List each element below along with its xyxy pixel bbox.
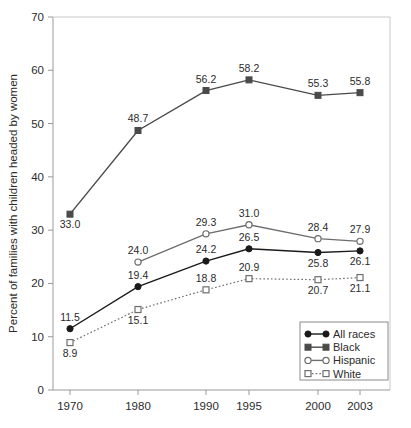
data-point-label: 25.8 [308, 257, 329, 269]
y-axis-tick-label: 20 [31, 277, 44, 289]
data-point-marker [315, 249, 321, 255]
data-point-marker [203, 258, 209, 264]
y-axis-tick-label: 60 [31, 64, 44, 76]
data-point-marker [135, 307, 141, 313]
data-point-marker [357, 238, 363, 244]
data-point-marker [315, 277, 321, 283]
data-point-label: 8.9 [63, 347, 78, 359]
legend-swatch-marker [305, 371, 311, 377]
line-chart: 010203040506070197019801990199520002003P… [0, 0, 411, 428]
data-point-marker [135, 127, 141, 133]
legend-item-white[interactable]: White [333, 368, 361, 380]
data-point-marker [67, 340, 73, 346]
data-point-marker [246, 276, 252, 282]
legend-swatch-marker [323, 344, 329, 350]
series-line-black [70, 80, 360, 214]
data-point-marker [246, 77, 252, 83]
data-point-label: 33.0 [60, 218, 81, 230]
data-point-label: 11.5 [60, 311, 80, 323]
data-point-label: 31.0 [239, 207, 260, 219]
data-point-label: 48.7 [128, 112, 149, 124]
data-point-label: 21.1 [350, 282, 371, 294]
y-axis-tick-label: 0 [38, 384, 44, 396]
data-point-label: 26.1 [350, 255, 371, 267]
y-axis-tick-label: 10 [31, 331, 44, 343]
data-point-marker [357, 275, 363, 281]
legend-swatch-marker [323, 357, 329, 363]
data-point-label: 15.1 [128, 314, 149, 326]
x-axis-tick-label: 1970 [57, 400, 83, 412]
y-axis-tick-label: 40 [31, 171, 44, 183]
data-point-label: 20.9 [239, 261, 260, 273]
data-point-marker [67, 211, 73, 217]
data-point-marker [246, 222, 252, 228]
data-point-marker [357, 248, 363, 254]
data-point-label: 56.2 [196, 73, 217, 85]
data-point-marker [315, 236, 321, 242]
legend-item-all-races[interactable]: All races [333, 328, 376, 340]
data-point-label: 55.8 [350, 75, 371, 87]
data-point-marker [203, 88, 209, 94]
data-point-label: 58.2 [239, 62, 260, 74]
x-axis-tick-label: 1980 [125, 400, 151, 412]
x-axis-tick-label: 1995 [236, 400, 262, 412]
y-axis-tick-label: 70 [31, 11, 44, 23]
data-point-marker [203, 287, 209, 293]
data-point-label: 24.0 [128, 244, 149, 256]
x-axis-tick-label: 2000 [305, 400, 331, 412]
data-point-label: 55.3 [308, 77, 329, 89]
y-axis-title: Percent of families with children headed… [7, 74, 19, 333]
legend-item-hispanic[interactable]: Hispanic [333, 354, 376, 366]
data-point-label: 18.8 [196, 272, 217, 284]
legend-swatch-marker [305, 344, 311, 350]
data-point-label: 29.3 [196, 216, 217, 228]
data-point-marker [203, 231, 209, 237]
legend-swatch-marker [305, 331, 311, 337]
legend-swatch-marker [323, 371, 329, 377]
data-point-marker [315, 92, 321, 98]
data-point-marker [357, 90, 363, 96]
legend-swatch-marker [305, 357, 311, 363]
data-point-label: 27.9 [350, 223, 371, 235]
legend-swatch-marker [323, 331, 329, 337]
data-point-label: 19.4 [128, 269, 149, 281]
legend-item-black[interactable]: Black [333, 341, 360, 353]
y-axis-tick-label: 50 [31, 118, 44, 130]
data-point-marker [67, 326, 73, 332]
x-axis-tick-label: 1990 [193, 400, 219, 412]
data-point-label: 20.7 [308, 284, 329, 296]
data-point-label: 28.4 [308, 221, 329, 233]
data-point-label: 24.2 [196, 243, 217, 255]
data-point-marker [246, 246, 252, 252]
x-axis-tick-label: 2003 [347, 400, 373, 412]
data-point-marker [135, 284, 141, 290]
y-axis-tick-label: 30 [31, 224, 44, 236]
chart-container: 010203040506070197019801990199520002003P… [0, 0, 411, 428]
data-point-label: 26.5 [239, 231, 260, 243]
data-point-marker [135, 259, 141, 265]
